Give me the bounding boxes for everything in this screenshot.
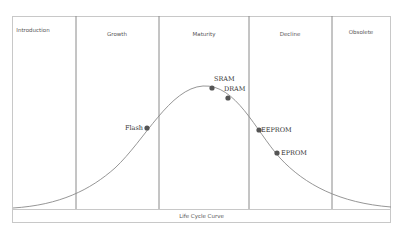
label-eprom: EPROM [281,149,307,157]
data-points [144,85,279,155]
label-dram: DRAM [224,85,245,93]
stage-dividers [76,16,332,209]
label-sram: SRAM [214,75,235,83]
stage-label-introduction: Introduction [16,27,49,33]
label-eeprom: EEPROM [261,126,292,134]
stage-label-decline: Decline [280,31,301,37]
point-sram [209,85,214,90]
point-dram [225,95,230,100]
chart-caption: Life Cycle Curve [12,213,391,219]
stage-label-obsolete: Obsolete [349,29,374,35]
point-flash [144,125,149,130]
stage-label-maturity: Maturity [193,31,216,37]
life-cycle-curve [13,86,391,208]
point-eprom [274,150,279,155]
stage-label-growth: Growth [107,31,127,37]
label-flash: Flash [125,124,143,132]
caption-band: Life Cycle Curve [12,209,391,223]
